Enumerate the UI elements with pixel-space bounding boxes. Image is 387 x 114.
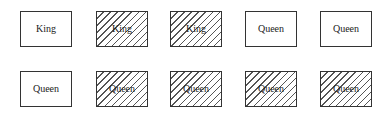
card-queen-plain: Queen (320, 11, 372, 47)
card-queen-hatched: Queen (170, 71, 222, 107)
card-label: King (35, 24, 57, 34)
card-label: Queen (32, 84, 60, 94)
card-queen-hatched: Queen (320, 71, 372, 107)
card-king-hatched: King (170, 11, 222, 47)
card-label: Queen (257, 84, 285, 94)
card-queen-hatched: Queen (245, 71, 297, 107)
card-king-hatched: King (96, 11, 148, 47)
card-label: Queen (257, 24, 285, 34)
card-queen-plain: Queen (20, 71, 72, 107)
card-label: King (111, 24, 133, 34)
card-label: King (185, 24, 207, 34)
card-king-plain: King (20, 11, 72, 47)
card-label: Queen (332, 24, 360, 34)
card-label: Queen (108, 84, 136, 94)
card-label: Queen (332, 84, 360, 94)
card-queen-plain: Queen (245, 11, 297, 47)
card-queen-hatched: Queen (96, 71, 148, 107)
card-label: Queen (182, 84, 210, 94)
